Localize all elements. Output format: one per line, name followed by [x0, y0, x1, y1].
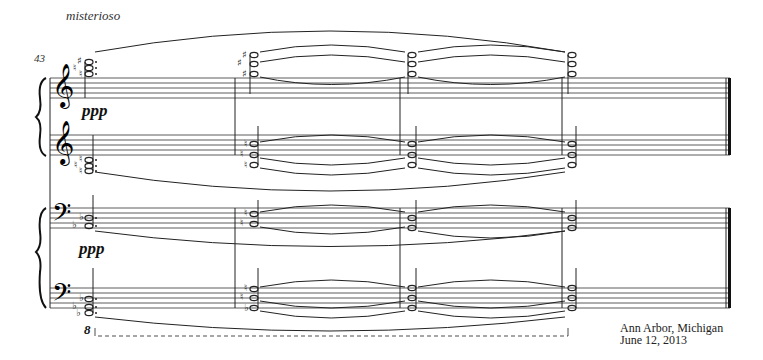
svg-text:♮: ♮ [244, 207, 248, 218]
staff-bass-1 [50, 208, 730, 228]
svg-text:♮: ♮ [240, 291, 244, 302]
svg-text:♭: ♭ [72, 219, 77, 230]
svg-text:♭: ♭ [244, 302, 249, 313]
svg-text:♮: ♮ [79, 165, 83, 176]
svg-text:♭: ♭ [76, 307, 81, 318]
accidentals: ♯♮♮ ♮♮♮ ♭♭ ♭♭♭ ♯♯♯ ♮♮♮ ♮♮ ♮♮♭ [72, 49, 249, 318]
staff-treble-1 [50, 78, 730, 98]
svg-text:♮: ♮ [79, 153, 83, 164]
treble-clef-icon: 𝄞 [52, 63, 74, 109]
brace-lower [36, 208, 46, 308]
svg-text:♮: ♮ [244, 282, 248, 293]
svg-text:♮: ♮ [240, 217, 244, 228]
stems [85, 55, 576, 313]
brace-upper [36, 78, 46, 156]
bass-clef-icon: 𝄢 [52, 198, 71, 233]
staff-treble-2 [50, 135, 730, 155]
svg-text:♮: ♮ [73, 62, 77, 73]
svg-text:♯: ♯ [237, 57, 242, 68]
final-barline [726, 78, 731, 308]
svg-text:♮: ♮ [79, 68, 83, 79]
ottava-line [95, 328, 568, 336]
svg-text:♯: ♯ [242, 49, 247, 60]
svg-text:♮: ♮ [240, 148, 244, 159]
svg-text:♯: ♯ [77, 55, 82, 66]
ties [95, 31, 565, 331]
svg-text:♭: ♭ [79, 292, 84, 303]
augmentation-dots [95, 61, 97, 314]
svg-text:♮: ♮ [244, 159, 248, 170]
svg-text:♮: ♮ [244, 138, 248, 149]
svg-text:♭: ♭ [79, 211, 84, 222]
music-score: 𝄞 𝄞 𝄢 𝄢 ♯♮♮ ♮♮♮ [0, 0, 763, 360]
staff-lines [50, 78, 730, 308]
svg-text:♮: ♮ [74, 159, 78, 170]
note-heads [85, 52, 576, 315]
bass-clef-icon: 𝄢 [52, 278, 71, 313]
treble-clef-icon: 𝄞 [52, 120, 74, 166]
staff-bass-2 [50, 288, 730, 308]
measure-barlines [235, 78, 562, 308]
svg-text:♯: ♯ [242, 68, 247, 79]
